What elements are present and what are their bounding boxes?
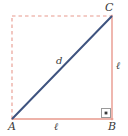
vertex-label-c: C: [105, 2, 113, 13]
diagonal-label: d: [56, 56, 62, 66]
diagonal-line: [13, 17, 112, 119]
figure-canvas: [0, 0, 128, 136]
vertex-label-a: A: [8, 121, 16, 132]
geometry-figure: A B C ℓ ℓ d: [0, 0, 128, 136]
side-label-bottom: ℓ: [54, 122, 58, 132]
side-label-right: ℓ: [116, 61, 120, 71]
vertex-label-b: B: [108, 121, 116, 132]
right-angle-mark-dot: [105, 112, 108, 115]
